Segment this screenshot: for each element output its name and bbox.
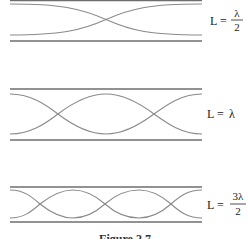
length-label-numerator: λ xyxy=(234,7,240,19)
length-label-numerator: 3λ xyxy=(233,190,245,202)
wave-curve-b xyxy=(10,190,202,218)
length-label-lhs: L = xyxy=(210,14,227,28)
wave-curve-b xyxy=(10,4,202,35)
panel-three-half-wavelength: L = 3λ 2 xyxy=(10,187,246,222)
wave-curve-b xyxy=(10,94,202,134)
wave-curve-a xyxy=(10,190,202,218)
length-label-value: λ xyxy=(229,107,235,121)
length-label-lhs: L = xyxy=(207,198,224,212)
wave-curve-a xyxy=(10,94,202,134)
figure-caption: Figure 2.7 xyxy=(99,232,151,239)
panel-half-wavelength: L = λ 2 xyxy=(10,1,243,42)
length-label-denominator: 2 xyxy=(235,205,241,217)
standing-wave-diagram: L = λ 2 L = λ L = 3λ 2 Figure 2.7 xyxy=(0,0,250,239)
panel-full-wavelength: L = λ xyxy=(10,89,235,140)
length-label-denominator: 2 xyxy=(234,21,240,33)
length-label-lhs: L = xyxy=(207,107,224,121)
